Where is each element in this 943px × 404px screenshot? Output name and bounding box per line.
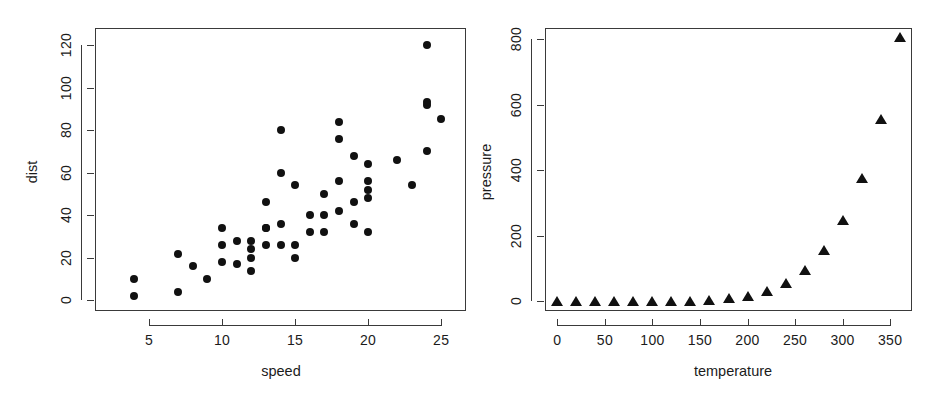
y-axis-tick xyxy=(87,258,94,259)
data-point xyxy=(570,296,582,306)
x-axis-tick xyxy=(605,319,606,326)
x-axis-tick xyxy=(843,319,844,326)
data-point xyxy=(723,293,735,303)
x-axis-tick xyxy=(368,319,369,326)
data-point xyxy=(423,41,431,49)
data-point xyxy=(306,211,314,219)
x-axis-tick-label: 25 xyxy=(433,332,449,348)
y-axis-line xyxy=(81,45,82,300)
y-axis-tick xyxy=(537,236,544,237)
y-axis-tick xyxy=(87,130,94,131)
data-point xyxy=(894,32,906,42)
y-axis-tick-label: 40 xyxy=(58,207,74,223)
data-point xyxy=(306,228,314,236)
x-axis-tick-label: 100 xyxy=(640,332,664,348)
data-point xyxy=(799,265,811,275)
data-point xyxy=(551,296,563,306)
y-axis-tick-label: 80 xyxy=(58,122,74,138)
y-axis-tick xyxy=(87,300,94,301)
y-axis-tick-label: 100 xyxy=(58,75,74,99)
x-axis-tick-label: 15 xyxy=(287,332,303,348)
data-point xyxy=(780,278,792,288)
data-point xyxy=(818,245,830,255)
data-point xyxy=(247,267,255,275)
x-axis-tick xyxy=(441,319,442,326)
y-axis-tick-label: 400 xyxy=(508,158,524,182)
x-axis-tick-label: 50 xyxy=(597,332,613,348)
y-axis-tick-label: 0 xyxy=(508,297,524,305)
data-point xyxy=(262,224,270,232)
data-point xyxy=(589,296,601,306)
data-point xyxy=(875,114,887,124)
figure-canvas: 510152025020406080100120speeddist 050100… xyxy=(0,0,943,404)
x-axis-tick xyxy=(222,319,223,326)
x-axis-title: temperature xyxy=(694,363,772,379)
data-point xyxy=(277,126,285,134)
data-point xyxy=(703,295,715,305)
y-axis-tick xyxy=(87,45,94,46)
data-point xyxy=(684,296,696,306)
x-axis-tick xyxy=(149,319,150,326)
x-axis-tick-label: 350 xyxy=(878,332,902,348)
x-axis-tick-label: 20 xyxy=(360,332,376,348)
y-axis-tick xyxy=(537,301,544,302)
y-axis-tick-label: 0 xyxy=(58,296,74,304)
y-axis-line xyxy=(531,39,532,301)
y-axis-tick xyxy=(537,170,544,171)
data-point xyxy=(742,291,754,301)
data-point xyxy=(335,118,343,126)
data-point xyxy=(761,286,773,296)
data-point xyxy=(233,237,241,245)
x-axis-tick-label: 200 xyxy=(735,332,759,348)
data-point xyxy=(837,215,849,225)
x-axis-tick xyxy=(890,319,891,326)
data-point xyxy=(277,220,285,228)
x-axis-tick-label: 0 xyxy=(553,332,561,348)
data-point xyxy=(174,250,182,258)
y-axis-tick xyxy=(87,215,94,216)
x-axis-tick xyxy=(748,319,749,326)
data-point xyxy=(335,207,343,215)
data-point xyxy=(233,260,241,268)
y-axis-tick-label: 800 xyxy=(508,27,524,51)
x-axis-line xyxy=(557,325,890,326)
y-axis-tick xyxy=(537,39,544,40)
x-axis-tick-label: 300 xyxy=(830,332,854,348)
data-point xyxy=(364,186,372,194)
data-point xyxy=(608,296,620,306)
x-axis-tick-label: 10 xyxy=(214,332,230,348)
data-point xyxy=(665,296,677,306)
x-axis-tick xyxy=(795,319,796,326)
data-point xyxy=(350,152,358,160)
plot-frame xyxy=(545,28,912,311)
x-axis-tick xyxy=(700,319,701,326)
data-point xyxy=(277,241,285,249)
data-point xyxy=(262,241,270,249)
y-axis-tick-label: 120 xyxy=(58,33,74,57)
data-point xyxy=(423,147,431,155)
y-axis-tick xyxy=(537,105,544,106)
x-axis-tick xyxy=(652,319,653,326)
y-axis-title: pressure xyxy=(478,144,494,200)
x-axis-tick-label: 150 xyxy=(688,332,712,348)
x-axis-tick xyxy=(295,319,296,326)
data-point xyxy=(856,173,868,183)
y-axis-title: dist xyxy=(24,161,40,184)
y-axis-tick-label: 200 xyxy=(508,224,524,248)
data-point xyxy=(218,224,226,232)
data-point xyxy=(646,296,658,306)
x-axis-tick xyxy=(557,319,558,326)
y-axis-tick-label: 20 xyxy=(58,250,74,266)
data-point xyxy=(350,220,358,228)
x-axis-tick-label: 5 xyxy=(145,332,153,348)
x-axis-tick-label: 250 xyxy=(783,332,807,348)
data-point xyxy=(277,169,285,177)
y-axis-tick-label: 600 xyxy=(508,93,524,117)
y-axis-tick xyxy=(87,173,94,174)
y-axis-tick xyxy=(87,88,94,89)
data-point xyxy=(291,254,299,262)
data-point xyxy=(627,296,639,306)
x-axis-title: speed xyxy=(261,363,301,379)
data-point xyxy=(335,135,343,143)
y-axis-tick-label: 60 xyxy=(58,165,74,181)
